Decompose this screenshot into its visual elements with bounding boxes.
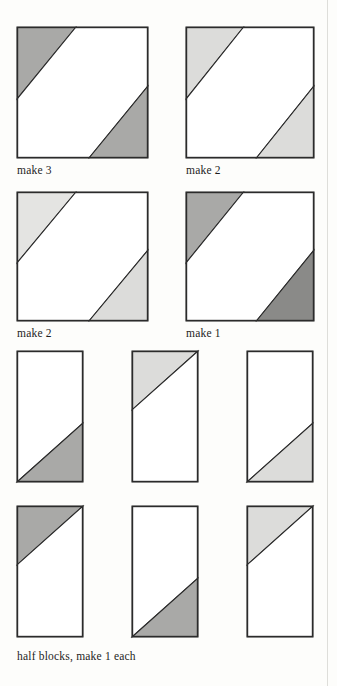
half-block-1: [17, 351, 83, 482]
block-make-2-b-caption: make 2: [17, 327, 52, 340]
block-make-3-caption: make 3: [17, 164, 52, 177]
half-block-6-canvas: [247, 506, 313, 637]
half-block-5-canvas: [132, 506, 198, 637]
block-make-1-canvas: [186, 192, 314, 321]
half-block-6: [247, 506, 313, 637]
half-blocks-caption: half blocks, make 1 each: [17, 650, 136, 663]
half-block-3: [247, 351, 313, 482]
block-make-3: [17, 27, 148, 158]
half-block-4-canvas: [17, 506, 83, 637]
block-make-1: [186, 192, 314, 321]
half-block-2-canvas: [132, 351, 198, 482]
page-edge-rule: [327, 0, 328, 686]
half-block-1-canvas: [17, 351, 83, 482]
half-block-4: [17, 506, 83, 637]
block-make-3-canvas: [17, 27, 148, 158]
block-make-2-a: [186, 27, 314, 158]
scanned-page: make 3make 2make 2make 1half blocks, mak…: [0, 0, 337, 686]
block-make-2-b-canvas: [17, 192, 148, 321]
half-block-5: [132, 506, 198, 637]
block-make-1-caption: make 1: [186, 327, 221, 340]
half-block-3-canvas: [247, 351, 313, 482]
block-make-2-a-canvas: [186, 27, 314, 158]
half-block-2: [132, 351, 198, 482]
block-make-2-a-caption: make 2: [186, 164, 221, 177]
block-make-2-b: [17, 192, 148, 321]
